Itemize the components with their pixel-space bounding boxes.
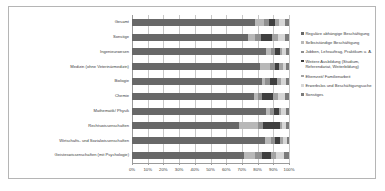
bar-segment[interactable] <box>255 152 262 159</box>
bar-segment[interactable] <box>132 137 265 144</box>
x-axis-tick-label: 10% <box>143 167 152 172</box>
stacked-bar[interactable] <box>132 78 289 85</box>
legend-label: Jobben, Lehrauftrag, Praktikum u. Ä. <box>305 49 372 55</box>
bar-segment[interactable] <box>270 78 277 85</box>
stacked-bar[interactable] <box>132 34 289 41</box>
bar-segment[interactable] <box>132 63 260 70</box>
bar-segment[interactable] <box>132 108 266 115</box>
chart-legend: Reguläre abhängige BeschäftigungSelbstst… <box>301 31 379 101</box>
category-label: Biologie <box>114 79 129 83</box>
stacked-bar[interactable] <box>132 48 289 55</box>
bar-segment[interactable] <box>244 152 255 159</box>
x-axis-tick-label: 30% <box>175 167 184 172</box>
legend-swatch <box>301 32 304 35</box>
category-label: Geisteswissenschaften (mit Psychologie) <box>55 153 129 157</box>
bar-segment[interactable] <box>285 34 289 41</box>
x-axis-tick-label: 40% <box>190 167 199 172</box>
legend-swatch <box>301 75 304 78</box>
legend-item[interactable]: Erwerbslos und Beschäftigungsuche <box>301 83 379 89</box>
stacked-bar[interactable] <box>132 19 289 26</box>
legend-label: Reguläre abhängige Beschäftigung <box>305 31 369 37</box>
category-label: Wirtschafts- und Sozialwissenschaften <box>59 139 129 143</box>
bar-segment[interactable] <box>287 137 289 144</box>
bar-segment[interactable] <box>286 108 289 115</box>
bar-segment[interactable] <box>263 122 279 129</box>
legend-item[interactable]: Weitere Ausbildung (Studium, Referendari… <box>301 59 379 70</box>
x-axis-tick-label: 0% <box>129 167 135 172</box>
x-axis-tick-label: 60% <box>222 167 231 172</box>
legend-label: Sonstiges <box>305 92 323 98</box>
stacked-bar[interactable] <box>132 122 289 129</box>
bar-segment[interactable] <box>286 122 289 129</box>
bar-segment[interactable] <box>132 93 254 100</box>
legend-item[interactable]: Sonstiges <box>301 92 379 98</box>
bars-container <box>132 15 289 163</box>
chart-frame: GesamtSonstigeIngenieurwesenMedizin (ohn… <box>8 6 376 179</box>
stacked-bar[interactable] <box>132 93 289 100</box>
bar-row <box>132 59 289 74</box>
x-axis-tick-label: 50% <box>206 167 215 172</box>
category-label: Gesamt <box>115 20 129 24</box>
stacked-bar[interactable] <box>132 63 289 70</box>
x-axis-tick-label: 80% <box>253 167 262 172</box>
bar-segment[interactable] <box>132 78 262 85</box>
bar-segment[interactable] <box>278 34 285 41</box>
bar-segment[interactable] <box>286 78 289 85</box>
legend-label: Elternzeit/ Familienarbeit <box>305 74 350 80</box>
legend-swatch <box>301 84 304 87</box>
x-axis-tick-label: 90% <box>269 167 278 172</box>
legend-label: Weitere Ausbildung (Studium, Referendari… <box>305 59 379 70</box>
bar-row <box>132 74 289 89</box>
bar-segment[interactable] <box>132 34 248 41</box>
category-label: Chemie <box>115 94 129 98</box>
bar-segment[interactable] <box>278 93 285 100</box>
x-axis-tick-mark <box>226 163 227 165</box>
x-axis-tick-mark <box>273 163 274 165</box>
x-axis-tick-mark <box>163 163 164 165</box>
bar-segment[interactable] <box>284 152 289 159</box>
category-label: Sonstige <box>113 35 129 39</box>
x-axis-tick-mark <box>258 163 259 165</box>
bar-segment[interactable] <box>239 122 259 129</box>
category-label: Rechtswissenschaften <box>88 124 129 128</box>
bar-segment[interactable] <box>261 34 273 41</box>
bar-segment[interactable] <box>285 93 289 100</box>
category-axis-labels: GesamtSonstigeIngenieurwesenMedizin (ohn… <box>9 15 129 163</box>
bar-segment[interactable] <box>132 122 239 129</box>
bar-row <box>132 45 289 60</box>
bar-segment[interactable] <box>262 152 271 159</box>
x-axis-tick-mark <box>242 163 243 165</box>
bar-row <box>132 133 289 148</box>
legend-swatch <box>301 60 304 63</box>
bar-row <box>132 89 289 104</box>
x-axis-tick-mark <box>211 163 212 165</box>
gridline <box>289 15 290 163</box>
category-label: Mathematik/ Physik <box>94 109 130 113</box>
bar-row <box>132 30 289 45</box>
legend-label: Erwerbslos und Beschäftigungsuche <box>305 83 371 89</box>
legend-item[interactable]: Elternzeit/ Familienarbeit <box>301 74 379 80</box>
stacked-bar[interactable] <box>132 108 289 115</box>
stacked-bar[interactable] <box>132 137 289 144</box>
x-axis-tick-mark <box>132 163 133 165</box>
stacked-bar[interactable] <box>132 152 289 159</box>
bar-segment[interactable] <box>262 93 273 100</box>
bar-segment[interactable] <box>276 152 284 159</box>
legend-item[interactable]: Jobben, Lehrauftrag, Praktikum u. Ä. <box>301 49 379 55</box>
x-axis-tick-mark <box>148 163 149 165</box>
bar-segment[interactable] <box>248 34 255 41</box>
legend-item[interactable]: Selbstständige Beschäftigung <box>301 40 379 46</box>
bar-segment[interactable] <box>286 63 289 70</box>
bar-segment[interactable] <box>132 48 266 55</box>
bar-segment[interactable] <box>132 19 255 26</box>
plot-area <box>132 15 289 163</box>
bar-row <box>132 148 289 163</box>
bar-segment[interactable] <box>132 152 244 159</box>
bar-segment[interactable] <box>260 63 270 70</box>
legend-item[interactable]: Reguläre abhängige Beschäftigung <box>301 31 379 37</box>
bar-segment[interactable] <box>285 19 289 26</box>
bar-segment[interactable] <box>255 19 264 26</box>
legend-label: Selbstständige Beschäftigung <box>305 40 359 46</box>
bar-segment[interactable] <box>286 48 289 55</box>
x-axis-tick-label: 20% <box>159 167 168 172</box>
